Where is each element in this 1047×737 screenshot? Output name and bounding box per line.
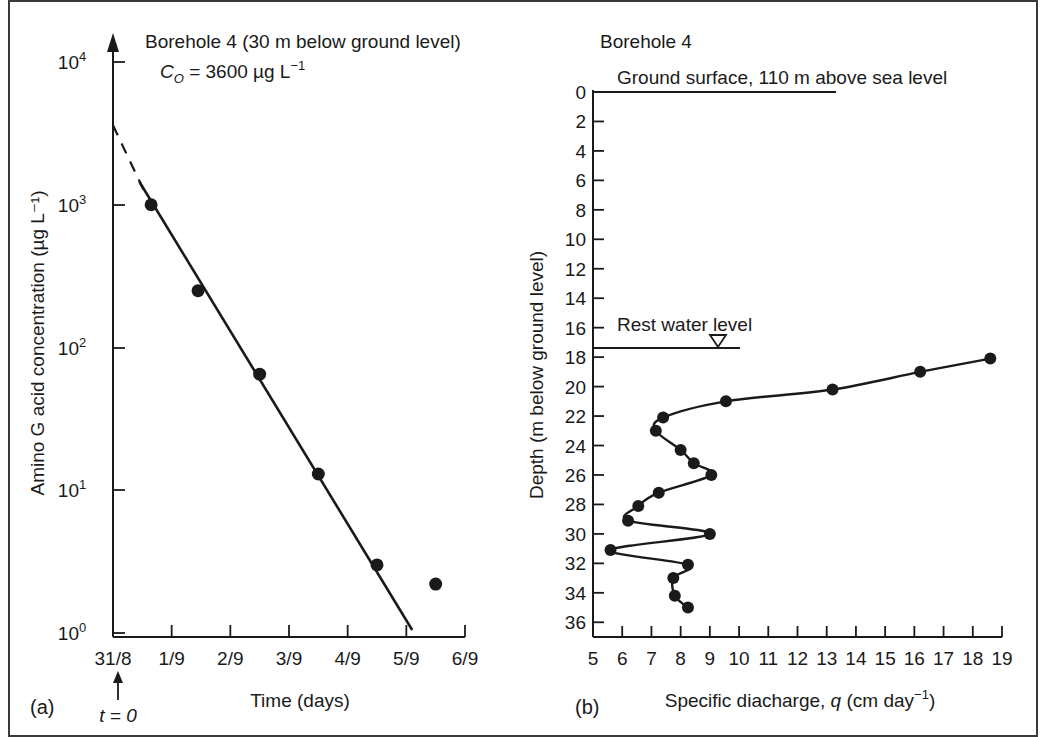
x-tick-label-31/8: 31/8 — [95, 648, 132, 669]
data-point-a-0 — [145, 198, 158, 211]
y-tick-label-16: 16 — [565, 318, 586, 339]
x-tick-label-6/9: 6/9 — [452, 648, 478, 669]
data-point-b-6 — [675, 444, 687, 456]
water-table-triangle-icon — [710, 335, 726, 347]
panel-a-x-tick-labels: 31/81/92/93/94/95/96/9 — [95, 648, 479, 669]
x-tick-label-14: 14 — [845, 648, 867, 669]
data-point-b-2 — [827, 384, 839, 396]
panel-b-y-ticks — [593, 92, 604, 622]
data-point-b-8 — [705, 469, 717, 481]
x-tick-label-13: 13 — [816, 648, 837, 669]
data-point-a-5 — [429, 578, 442, 591]
panel-a-y-tick-labels: 104 103 102 101 100 — [58, 49, 86, 644]
data-point-a-1 — [192, 284, 205, 297]
panel-b-y-tick-labels: 024681012141618202224262830323436 — [565, 82, 587, 633]
y-tick-label-22: 22 — [565, 406, 586, 427]
data-point-b-5 — [650, 425, 662, 437]
y-tick-label-20: 20 — [565, 377, 586, 398]
rest-water-level-label: Rest water level — [617, 314, 752, 335]
t-zero-label: t = 0 — [99, 705, 137, 726]
panel-b-title: Borehole 4 — [600, 31, 692, 52]
y-tick-label-10000: 104 — [58, 49, 86, 73]
c0-unit-exponent: −1 — [290, 58, 305, 73]
x-tick-label-15: 15 — [875, 648, 896, 669]
y-tick-label-2: 2 — [575, 111, 586, 132]
data-point-b-1 — [914, 366, 926, 378]
data-point-b-16 — [669, 590, 681, 602]
y-tick-label-100: 102 — [58, 335, 86, 359]
data-point-b-10 — [632, 500, 644, 512]
x-tick-label-9: 9 — [705, 648, 716, 669]
y-tick-label-36: 36 — [565, 612, 586, 633]
data-point-b-15 — [667, 572, 679, 584]
data-point-b-11 — [622, 515, 634, 527]
panel-b-data-points — [605, 353, 997, 614]
y-tick-label-8: 8 — [575, 200, 586, 221]
y-tick-label-24: 24 — [565, 436, 587, 457]
y-tick-label-1000: 103 — [58, 192, 86, 216]
x-tick-label-17: 17 — [933, 648, 954, 669]
data-point-b-0 — [984, 353, 996, 365]
panel-a-title: Borehole 4 (30 m below ground level) — [145, 31, 461, 52]
t-zero-annotation: t = 0 — [99, 671, 137, 726]
data-point-b-7 — [688, 457, 700, 469]
x-tick-label-19: 19 — [991, 648, 1012, 669]
x-tick-label-11: 11 — [758, 648, 778, 669]
panel-a-x-ticks — [113, 625, 465, 637]
panel-b-x-axis-title: Specific diacharge, q (cm day−1) — [665, 687, 935, 711]
panel-b-profile-line — [610, 359, 990, 608]
panel-b-x-ticks — [593, 626, 1002, 637]
data-point-b-4 — [657, 412, 669, 424]
x-tick-label-18: 18 — [962, 648, 983, 669]
panel-a-y-axis-title: Amino G acid concentration (µg L⁻¹) — [27, 190, 48, 495]
x-tick-label-6: 6 — [617, 648, 628, 669]
y-tick-label-14: 14 — [565, 288, 587, 309]
y-tick-label-6: 6 — [575, 170, 586, 191]
panel-a-label: (a) — [30, 696, 54, 718]
c0-value: = 3600 µg L — [184, 61, 291, 82]
x-tick-label-1/9: 1/9 — [158, 648, 184, 669]
x-title-close: ) — [929, 690, 935, 711]
panel-a-y-axis-arrow — [107, 33, 119, 52]
c0-symbol: C — [160, 61, 174, 82]
x-tick-label-7: 7 — [646, 648, 657, 669]
c0-subscript: O — [174, 71, 184, 86]
x-title-exponent: −1 — [914, 687, 929, 702]
x-tick-label-12: 12 — [787, 648, 808, 669]
y-tick-label-34: 34 — [565, 583, 587, 604]
data-point-b-9 — [653, 487, 665, 499]
x-tick-label-3/9: 3/9 — [276, 648, 302, 669]
x-title-part1: Specific diacharge, — [665, 690, 831, 711]
panel-b: Borehole 4 02468101214161820222426283032… — [526, 31, 1013, 718]
data-point-a-2 — [253, 368, 266, 381]
panel-a-initial-concentration: CO = 3600 µg L−1 — [160, 58, 305, 86]
y-tick-label-32: 32 — [565, 553, 586, 574]
x-tick-label-10: 10 — [729, 648, 750, 669]
panel-a-x-axis-title: Time (days) — [250, 690, 350, 711]
panel-b-label: (b) — [575, 696, 599, 718]
y-tick-label-26: 26 — [565, 465, 586, 486]
ground-surface-label: Ground surface, 110 m above sea level — [617, 67, 947, 88]
y-tick-label-1: 100 — [58, 620, 86, 644]
x-tick-label-16: 16 — [904, 648, 925, 669]
panel-a: Borehole 4 (30 m below ground level) CO … — [27, 31, 478, 726]
data-point-b-13 — [605, 544, 617, 556]
y-tick-label-18: 18 — [565, 347, 586, 368]
panel-a-data-points — [145, 198, 443, 590]
data-point-a-4 — [371, 558, 384, 571]
q-symbol: q — [831, 690, 842, 711]
data-point-b-14 — [682, 559, 694, 571]
t-zero-arrow-head — [113, 671, 123, 683]
y-tick-label-12: 12 — [565, 259, 586, 280]
y-tick-label-10: 10 — [565, 229, 586, 250]
x-tick-label-2/9: 2/9 — [217, 648, 243, 669]
data-point-b-12 — [704, 528, 716, 540]
x-tick-label-5/9: 5/9 — [393, 648, 419, 669]
figure-container: Borehole 4 (30 m below ground level) CO … — [0, 0, 1047, 737]
data-point-b-17 — [682, 602, 694, 614]
y-tick-label-28: 28 — [565, 494, 586, 515]
data-point-a-3 — [312, 467, 325, 480]
y-tick-label-10: 101 — [58, 477, 86, 501]
y-tick-label-30: 30 — [565, 524, 586, 545]
x-tick-label-5: 5 — [588, 648, 599, 669]
